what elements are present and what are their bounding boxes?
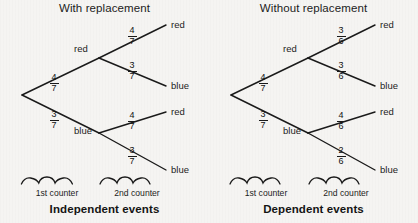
prob-root-blue: 3 7 (46, 110, 62, 130)
leaf-label-red-red: red (171, 20, 185, 30)
leaf-label-blue-blue: blue (380, 165, 398, 175)
node-label-blue: blue (283, 126, 301, 136)
brace-label-1st-counter: 1st counter (17, 189, 97, 198)
brace-2nd-counter (100, 177, 150, 184)
prob-red-blue: 3 7 (124, 61, 140, 81)
node-label-blue: blue (74, 126, 92, 136)
brace-2nd-counter (309, 177, 359, 184)
leaf-label-red-red: red (380, 20, 394, 30)
node-label-red: red (74, 44, 88, 54)
panel-with-replacement: With replacement (0, 0, 209, 223)
diagram-canvas: With replacement (0, 0, 418, 223)
prob-red-red: 4 7 (124, 26, 140, 46)
prob-blue-red: 4 6 (333, 111, 349, 131)
brace-label-1st-counter: 1st counter (226, 189, 306, 198)
leaf-label-blue-red: red (171, 107, 185, 117)
leaf-label-blue-blue: blue (171, 165, 189, 175)
prob-root-red: 4 7 (46, 73, 62, 93)
panel-caption: Independent events (0, 203, 209, 215)
prob-root-red: 4 7 (255, 73, 271, 93)
prob-red-red: 3 6 (333, 26, 349, 46)
panel-without-replacement: Without replacement 4 7 3 7 (209, 0, 418, 223)
brace-1st-counter (21, 177, 72, 184)
prob-blue-red: 4 7 (124, 111, 140, 131)
leaf-label-blue-red: red (380, 107, 394, 117)
brace-1st-counter (230, 177, 280, 184)
leaf-label-red-blue: blue (171, 81, 189, 91)
node-label-red: red (283, 44, 297, 54)
prob-blue-blue: 2 6 (333, 146, 349, 166)
leaf-label-red-blue: blue (380, 81, 398, 91)
brace-label-2nd-counter: 2nd counter (306, 189, 386, 198)
prob-red-blue: 3 6 (333, 61, 349, 81)
panel-caption: Dependent events (209, 203, 418, 215)
prob-root-blue: 3 7 (255, 110, 271, 130)
brace-label-2nd-counter: 2nd counter (97, 189, 177, 198)
prob-blue-blue: 3 7 (124, 146, 140, 166)
